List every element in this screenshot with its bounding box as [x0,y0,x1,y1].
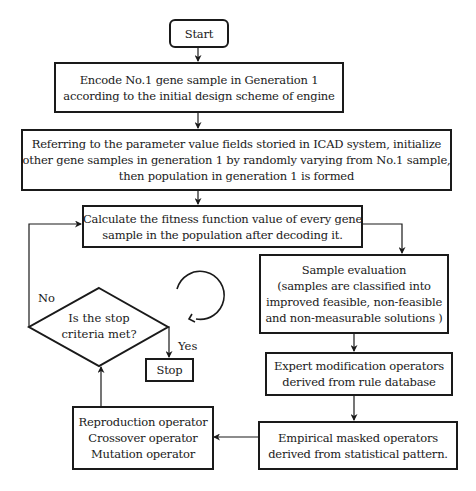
expert-operators-step: Expert modification operators derived fr… [265,352,453,396]
evaluation-line: improved feasible, non-feasible [266,294,442,310]
empirical-line: Empirical masked operators [278,430,438,446]
empirical-operators-step: Empirical masked operators derived from … [258,421,458,470]
start-terminal: Start [169,19,229,48]
expert-line: Expert modification operators [274,358,444,374]
expert-line: derived from rule database [282,374,435,390]
genetic-op-line: Mutation operator [91,446,195,462]
start-label: Start [185,26,213,42]
stop-label: Stop [157,362,183,378]
genetic-op-line: Reproduction operator [78,414,207,430]
fitness-calculation-step: Calculate the fitness function value of … [82,205,363,248]
fitness-line: Calculate the fitness function value of … [83,211,362,227]
initialize-line: then population in generation 1 is forme… [119,168,354,184]
sample-evaluation-step: Sample evaluation (samples are classifie… [259,254,449,334]
evaluation-line: Sample evaluation [302,262,406,278]
initialize-line: Referring to the parameter value fields … [32,136,441,152]
arrow-decision-yes-to-stop [168,327,169,357]
arrow-fitness-to-evaluation [362,224,402,253]
decision-text: Is the stop criteria met? [49,310,149,342]
yes-label: Yes [178,339,197,353]
stop-terminal: Stop [145,358,194,382]
clockwise-circular-arrow-icon [177,271,224,322]
initialize-population-step: Referring to the parameter value fields … [21,129,452,191]
empirical-line: derived from statistical pattern. [268,446,448,462]
decision-line: criteria met? [49,326,149,342]
initialize-line: other gene samples in generation 1 by ra… [23,152,451,168]
encode-step: Encode No.1 gene sample in Generation 1 … [54,62,344,113]
fitness-line: sample in the population after decoding … [102,227,342,243]
evaluation-line: (samples are classified into [277,278,431,294]
evaluation-line: and non-measurable solutions ) [265,310,442,326]
genetic-operators-step: Reproduction operator Crossover operator… [72,406,214,470]
no-label: No [38,291,55,305]
decision-line: Is the stop [49,310,149,326]
encode-line: Encode No.1 gene sample in Generation 1 [80,72,319,88]
encode-line: according to the initial design scheme o… [63,88,334,104]
genetic-op-line: Crossover operator [88,430,197,446]
